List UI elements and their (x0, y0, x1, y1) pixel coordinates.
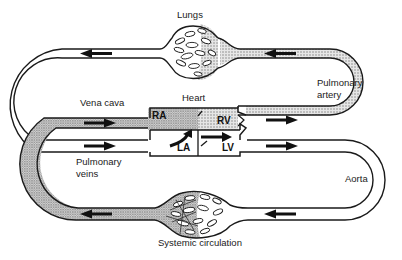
label-heart: Heart (182, 92, 205, 103)
arrow-right-icon (84, 142, 116, 151)
label-pulmonary-veins-line1: Pulmonary (76, 156, 121, 167)
label-lungs: Lungs (177, 9, 203, 20)
arrow-left-icon (264, 210, 296, 219)
label-pulmonary-artery-line2: artery (317, 89, 341, 100)
arrow-left-icon (80, 49, 112, 58)
chamber-ra: RA (152, 110, 166, 121)
chamber-rv: RV (217, 115, 231, 126)
arrow-right-icon (266, 142, 298, 151)
label-vena-cava: Vena cava (80, 97, 124, 108)
chamber-lv: LV (222, 142, 234, 153)
arrow-right-icon (266, 116, 298, 125)
systemic-capillary-bed (155, 191, 248, 238)
label-pulmonary-veins-line2: veins (76, 168, 98, 179)
label-pulmonary-artery-line1: Pulmonary (317, 77, 362, 88)
circulation-diagram (0, 0, 402, 260)
chamber-la: LA (177, 142, 190, 153)
label-systemic-circulation: Systemic circulation (158, 237, 242, 248)
lungs-capillary-bed (160, 24, 218, 80)
label-aorta: Aorta (345, 173, 368, 184)
